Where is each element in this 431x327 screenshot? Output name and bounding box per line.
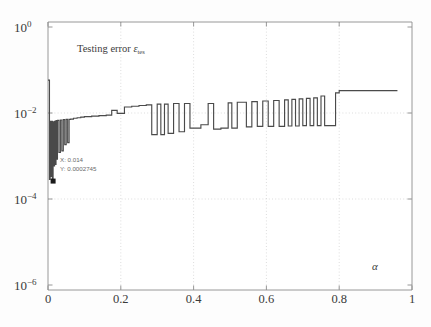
xtick-label-0.2: 0.2 [113,292,129,306]
datatip-x-value: X: 0.014 [60,156,84,163]
xtick-label-0.6: 0.6 [259,292,275,306]
semilog-chart: 100 10−2 10−4 10−6 0 0.2 0.4 0.6 0.8 1 T… [0,0,431,327]
plot-area-background [48,22,412,290]
x-axis-label-alpha: α [372,260,378,272]
xtick-label-0.8: 0.8 [331,292,347,306]
xtick-label-0.4: 0.4 [186,292,202,306]
xtick-label-1: 1 [409,292,415,306]
plot-title: Testing error εtes [77,43,145,55]
datatip-marker[interactable] [51,179,56,184]
xtick-label-0: 0 [45,292,51,306]
figure-canvas: 100 10−2 10−4 10−6 0 0.2 0.4 0.6 0.8 1 T… [0,0,431,327]
datatip-y-value: Y: 0.0002745 [60,165,97,172]
